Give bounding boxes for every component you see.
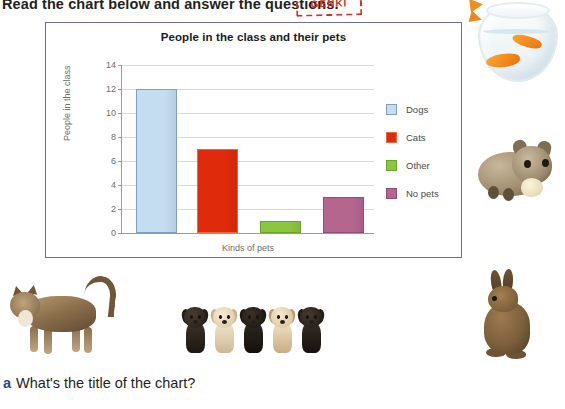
cat-chest-marking <box>18 310 33 327</box>
gridline <box>122 65 374 66</box>
puppy <box>242 307 266 355</box>
y-tick-mark <box>118 113 122 114</box>
puppy-head <box>300 307 322 328</box>
genki-stamp: GENKI <box>296 0 363 17</box>
fishbowl-rim <box>486 2 550 19</box>
puppy-nose <box>280 320 285 324</box>
rabbit-eye <box>492 296 497 301</box>
cat-photo <box>6 276 124 356</box>
legend-swatch <box>386 104 397 115</box>
puppy-head <box>242 307 264 328</box>
chart-panel: People in the class and their pets Peopl… <box>45 22 462 258</box>
y-tick-label: 14 <box>106 60 116 70</box>
y-tick-mark <box>118 65 122 66</box>
puppy-eye <box>277 315 280 319</box>
bar-cats <box>197 149 238 233</box>
x-axis-line <box>121 233 374 234</box>
bar-no-pets <box>323 197 364 233</box>
goldfish-bowl-photo <box>470 0 562 82</box>
legend-item-no-pets: No pets <box>386 179 466 207</box>
hamster-food <box>521 178 543 197</box>
legend-item-cats: Cats <box>386 123 466 151</box>
rabbit-photo <box>474 272 554 364</box>
puppy-nose <box>309 320 314 324</box>
hamster-eye <box>524 160 531 168</box>
puppy-eye <box>190 315 193 319</box>
instruction-text: Read the chart below and answer the ques… <box>2 0 339 12</box>
y-tick-mark <box>118 137 122 138</box>
legend-item-dogs: Dogs <box>386 95 466 123</box>
hamster-paw <box>503 188 514 201</box>
legend-label: Cats <box>406 132 426 143</box>
puppy-head <box>184 307 206 328</box>
cat-leg <box>44 328 52 354</box>
puppy-eye <box>314 315 317 319</box>
x-axis-title: Kinds of pets <box>122 243 374 253</box>
y-tick-label: 4 <box>111 180 116 190</box>
hamster-paw <box>488 186 499 199</box>
y-tick-mark <box>118 89 122 90</box>
hamster-eye <box>542 159 549 167</box>
y-tick-label: 10 <box>106 108 116 118</box>
bar-dogs <box>136 89 177 233</box>
puppy-eye <box>219 315 222 319</box>
legend-item-other: Other <box>386 151 466 179</box>
puppy-eye <box>248 315 251 319</box>
y-tick-mark <box>118 233 122 234</box>
puppy-eye <box>306 315 309 319</box>
legend-swatch <box>386 160 397 171</box>
legend-label: Dogs <box>406 104 428 115</box>
puppy <box>300 307 324 355</box>
y-tick-mark <box>118 209 122 210</box>
legend-swatch <box>386 132 397 143</box>
legend-swatch <box>386 188 397 199</box>
y-tick-label: 0 <box>111 228 116 238</box>
question-a: aWhat's the title of the chart? <box>3 375 195 391</box>
y-tick-label: 8 <box>111 132 116 142</box>
y-tick-label: 12 <box>106 84 116 94</box>
cat-leg <box>30 326 38 352</box>
y-tick-label: 6 <box>111 156 116 166</box>
puppy-nose <box>251 320 256 324</box>
puppy <box>184 307 208 355</box>
puppies-photo <box>182 281 334 357</box>
puppy <box>213 307 237 355</box>
y-axis-title: People in the class <box>62 65 72 141</box>
legend-label: No pets <box>406 188 439 199</box>
puppy-nose <box>222 320 227 324</box>
question-text: What's the title of the chart? <box>16 375 195 391</box>
y-tick-mark <box>118 185 122 186</box>
y-axis-line <box>121 65 122 233</box>
legend-label: Other <box>406 160 430 171</box>
bar-other <box>260 221 301 233</box>
y-tick-mark <box>118 161 122 162</box>
puppy-eye <box>256 315 259 319</box>
puppy-eye <box>198 315 201 319</box>
chart-title: People in the class and their pets <box>46 31 461 43</box>
puppy-eye <box>227 315 230 319</box>
puppy <box>271 307 295 355</box>
puppy-head <box>213 307 235 328</box>
cat-leg <box>84 327 92 353</box>
plot-area: 02468101214 <box>122 65 374 233</box>
chart-legend: DogsCatsOtherNo pets <box>386 95 466 207</box>
fishbowl-waterline <box>483 29 549 34</box>
puppy-head <box>271 307 293 328</box>
puppy-eye <box>285 315 288 319</box>
question-letter: a <box>3 375 11 391</box>
hamster-photo <box>474 140 558 204</box>
y-tick-label: 2 <box>111 204 116 214</box>
puppy-nose <box>193 320 198 324</box>
